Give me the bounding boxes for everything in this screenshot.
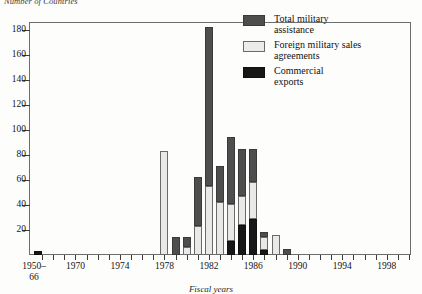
chart-title: Number of Countries — [4, 0, 78, 6]
bar-1981 — [194, 177, 202, 255]
bar-segment-total_military_assistance — [205, 27, 213, 186]
x-axis-tick — [87, 255, 88, 260]
legend-swatch-icon — [243, 67, 265, 78]
legend-item-commercial_exports: Commercialexports — [243, 66, 415, 87]
bar-segment-foreign_military_sales_agreements — [238, 196, 246, 225]
x-axis-tick — [187, 255, 188, 260]
x-axis-tick — [320, 255, 321, 260]
legend-item-label: Total militaryassistance — [274, 14, 415, 35]
legend-item-foreign_military_sales_agreements: Foreign military salesagreements — [243, 40, 415, 61]
bar-segment-total_military_assistance — [172, 237, 180, 255]
x-axis-tick — [376, 255, 377, 260]
x-axis-tick — [164, 255, 165, 260]
bar-1950-66 — [34, 251, 42, 255]
y-axis-tick-label: 80 — [17, 150, 27, 159]
x-axis-tick — [131, 255, 132, 260]
x-axis-tick — [209, 255, 210, 260]
y-axis-tick-label: 60 — [17, 175, 27, 184]
legend-swatch-icon — [243, 41, 265, 52]
bar-segment-total_military_assistance — [183, 237, 191, 247]
bar-segment-foreign_military_sales_agreements — [160, 151, 168, 255]
y-axis-tick-label: 100 — [12, 125, 26, 134]
x-axis-tick — [409, 255, 410, 260]
bar-segment-total_military_assistance — [238, 149, 246, 197]
x-axis-tick — [331, 255, 332, 260]
bar-segment-foreign_military_sales_agreements — [183, 247, 191, 255]
x-axis-tick — [264, 255, 265, 260]
y-axis-tick-label: 40 — [17, 200, 27, 209]
bar-segment-total_military_assistance — [216, 166, 224, 202]
bar-segment-total_military_assistance — [227, 137, 235, 203]
bar-segment-foreign_military_sales_agreements — [260, 237, 268, 250]
x-axis-tick — [153, 255, 154, 260]
bar-segment-foreign_military_sales_agreements — [205, 186, 213, 255]
bar-1987 — [260, 232, 268, 255]
y-axis-tick-label: 160 — [12, 50, 26, 59]
bar-segment-foreign_military_sales_agreements — [194, 226, 202, 255]
bar-segment-total_military_assistance — [283, 249, 291, 255]
bar-segment-commercial_exports — [249, 219, 257, 255]
x-axis-tick — [276, 255, 277, 260]
bar-1985 — [238, 149, 246, 255]
bar-segment-foreign_military_sales_agreements — [227, 204, 235, 242]
bar-segment-total_military_assistance — [249, 149, 257, 183]
y-axis-tick-label: 180 — [12, 25, 26, 34]
bar-segment-foreign_military_sales_agreements — [216, 202, 224, 255]
x-axis-tick — [98, 255, 99, 260]
x-axis-tick — [176, 255, 177, 260]
y-axis-tick-label: 140 — [12, 75, 26, 84]
x-axis-tick — [142, 255, 143, 260]
bar-segment-commercial_exports — [260, 250, 268, 255]
x-axis-tick — [309, 255, 310, 260]
bar-1983 — [216, 166, 224, 255]
bar-segment-foreign_military_sales_agreements — [249, 182, 257, 218]
x-axis-tick — [220, 255, 221, 260]
y-axis-tick-label: 120 — [12, 100, 26, 109]
chart-legend: Total militaryassistanceForeign military… — [243, 14, 415, 92]
x-axis-tick — [64, 255, 65, 260]
x-axis-tick — [231, 255, 232, 260]
bar-segment-total_military_assistance — [260, 232, 268, 237]
x-axis-tick — [242, 255, 243, 260]
x-axis-tick — [387, 255, 388, 260]
bar-1986 — [249, 149, 257, 255]
x-axis-tick — [398, 255, 399, 260]
x-axis-tick — [298, 255, 299, 260]
x-axis-tick-label: 1998 — [357, 261, 417, 272]
legend-swatch-icon — [243, 15, 265, 26]
x-axis-title: Fiscal years — [0, 284, 422, 294]
bar-segment-commercial_exports — [238, 225, 246, 255]
bar-1978 — [160, 151, 168, 255]
x-axis-tick — [198, 255, 199, 260]
x-axis-tick — [253, 255, 254, 260]
bar-1979 — [172, 237, 180, 255]
legend-item-total_military_assistance: Total militaryassistance — [243, 14, 415, 35]
legend-item-label: Commercialexports — [274, 66, 415, 87]
bar-1988 — [272, 235, 280, 255]
bar-segment-commercial_exports — [227, 241, 235, 255]
bar-1982 — [205, 27, 213, 255]
bar-1984 — [227, 137, 235, 255]
x-axis-tick — [120, 255, 121, 260]
x-axis-tick — [287, 255, 288, 260]
bar-segment-foreign_military_sales_agreements — [272, 235, 280, 255]
bar-segment-total_military_assistance — [194, 177, 202, 226]
x-axis-tick — [109, 255, 110, 260]
legend-item-label: Foreign military salesagreements — [274, 40, 415, 61]
x-axis-tick — [365, 255, 366, 260]
x-axis-tick — [53, 255, 54, 260]
bar-1980 — [183, 237, 191, 255]
x-axis-tick — [42, 255, 43, 260]
x-axis-tick — [342, 255, 343, 260]
bar-1989 — [283, 249, 291, 255]
x-axis-tick — [353, 255, 354, 260]
bar-segment-commercial_exports — [34, 251, 42, 255]
x-axis-tick — [75, 255, 76, 260]
y-axis-tick-label: 20 — [17, 225, 27, 234]
